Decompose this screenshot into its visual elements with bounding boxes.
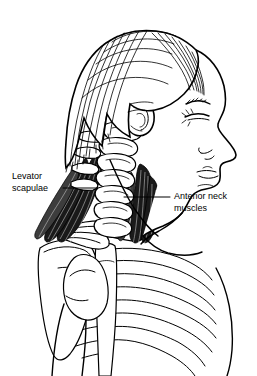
levator-scapulae-label: Levator scapulae [12, 171, 48, 193]
anterior-neck-muscles-label-line2: muscles [174, 203, 208, 213]
levator-scapulae-label-line1: Levator [12, 171, 42, 181]
anatomy-illustration: Levator scapulae Anterior neck muscles [0, 0, 257, 376]
levator-scapulae-label-line2: scapulae [12, 183, 48, 193]
anterior-neck-muscles-label-line1: Anterior neck [174, 191, 228, 201]
illustration-canvas: Levator scapulae Anterior neck muscles [0, 0, 257, 376]
